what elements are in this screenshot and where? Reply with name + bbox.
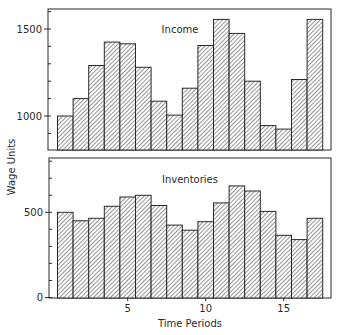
inventories-panel: 0500 51015 Inventories <box>24 158 331 314</box>
bar-period-16 <box>292 80 308 151</box>
bar-period-17 <box>307 218 323 298</box>
bar-period-12 <box>229 33 245 150</box>
bar-period-1 <box>58 212 74 298</box>
income-y-axis: 10001500 <box>17 12 51 134</box>
bar-period-2 <box>73 99 89 150</box>
bar-period-13 <box>245 81 261 150</box>
x-tick-label: 5 <box>125 303 131 314</box>
bar-period-4 <box>104 42 120 150</box>
y-tick-label: 500 <box>24 207 43 218</box>
y-axis-label: Wage Units <box>6 139 17 196</box>
bar-period-15 <box>276 129 292 150</box>
inventories-panel-title: Inventories <box>162 174 218 185</box>
bar-period-16 <box>292 240 308 298</box>
bar-period-4 <box>104 206 120 298</box>
bar-period-5 <box>120 197 136 298</box>
bar-period-3 <box>89 218 105 298</box>
x-axis: 51015 <box>125 298 291 314</box>
bar-period-6 <box>136 67 152 150</box>
income-bars <box>58 19 323 150</box>
bar-period-1 <box>58 116 74 150</box>
bar-period-3 <box>89 66 105 151</box>
income-panel: 10001500 Income <box>17 9 331 150</box>
bar-period-7 <box>151 101 167 150</box>
bar-period-7 <box>151 206 167 299</box>
bar-period-13 <box>245 191 261 298</box>
bar-period-8 <box>167 115 183 150</box>
x-tick-label: 15 <box>277 303 290 314</box>
x-tick-label: 10 <box>199 303 212 314</box>
bar-period-8 <box>167 225 183 298</box>
bar-period-15 <box>276 235 292 298</box>
bar-period-14 <box>260 211 276 298</box>
bar-period-12 <box>229 186 245 298</box>
inventories-bars <box>58 186 323 298</box>
y-tick-label: 1000 <box>17 111 42 122</box>
y-tick-label: 1500 <box>17 24 42 35</box>
bar-period-10 <box>198 46 214 151</box>
bar-period-11 <box>214 203 230 298</box>
bar-period-5 <box>120 44 136 150</box>
y-tick-label: 0 <box>37 292 43 303</box>
bar-period-11 <box>214 19 230 150</box>
inventories-y-axis: 0500 <box>24 161 52 303</box>
bar-period-9 <box>182 88 198 150</box>
bar-period-10 <box>198 222 214 298</box>
chart-figure: 10001500 Income 0500 51015 Inventories <box>0 0 341 335</box>
bar-period-17 <box>307 19 323 150</box>
bar-period-2 <box>73 221 89 298</box>
income-panel-title: Income <box>162 24 199 35</box>
bar-period-6 <box>136 195 152 298</box>
x-axis-label: Time Periods <box>150 318 230 329</box>
bar-period-9 <box>182 230 198 298</box>
y-axis-label-container: Wage Units <box>3 112 19 222</box>
bar-period-14 <box>260 126 276 150</box>
